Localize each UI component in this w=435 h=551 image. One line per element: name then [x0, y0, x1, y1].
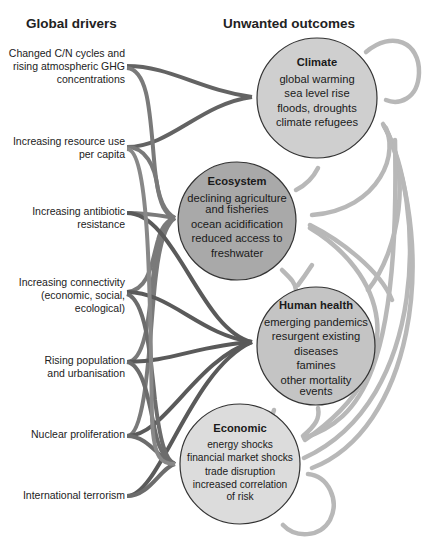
outcome-human-health: Human health emerging pandemics resurgen… [261, 298, 371, 399]
driver-line: ecological) [19, 302, 125, 315]
driver-line: Increasing connectivity [19, 276, 125, 289]
driver-line: per capita [13, 148, 125, 161]
outcome-title: Ecosystem [182, 174, 292, 189]
outcome-ecosystem: Ecosystem declining agriculture and fish… [182, 174, 292, 260]
outcome-item: financial market shocks [185, 451, 295, 465]
cn-to-ecosystem [127, 68, 175, 218]
driver-resource-use: Increasing resource use per capita [13, 135, 125, 161]
outcome-item: resurgent existing [261, 329, 371, 344]
driver-line: Increasing resource use [13, 135, 125, 148]
outcome-item: events [261, 384, 371, 399]
outcome-title: Human health [261, 298, 371, 313]
driver-nuclear-proliferation: Nuclear proliferation [31, 428, 125, 441]
driver-terrorism: International terrorism [23, 489, 125, 502]
driver-line: and urbanisation [44, 367, 125, 380]
outcome-climate: Climate global warming sea level rise fl… [262, 55, 372, 130]
outcome-title: Climate [262, 55, 372, 70]
driver-line: (economic, social, [19, 289, 125, 302]
outcome-item: emerging pandemics [261, 315, 371, 330]
driver-connectivity: Increasing connectivity (economic, socia… [19, 276, 125, 315]
outcomes-heading: Unwanted outcomes [223, 16, 355, 31]
outcome-item: of risk [185, 490, 295, 504]
outcome-title: Economic [185, 422, 295, 436]
resource-to-economic [127, 149, 175, 464]
driver-line: Changed C/N cycles and [9, 47, 125, 60]
ecosystem-to-health-link-2 [282, 270, 296, 290]
driver-line: rising atmospheric GHG [9, 60, 125, 73]
driver-line: Increasing antibiotic [32, 205, 125, 218]
driver-line: Rising population [44, 354, 125, 367]
driver-population: Rising population and urbanisation [44, 354, 125, 380]
outcome-item: freshwater [182, 246, 292, 261]
outcome-item: ocean acidification [182, 217, 292, 232]
driver-line: concentrations [9, 73, 125, 86]
outcome-item: floods, droughts [262, 101, 372, 116]
drivers-heading: Global drivers [26, 16, 117, 31]
driver-line: International terrorism [23, 489, 125, 502]
driver-line: resistance [32, 218, 125, 231]
outcome-item: trade disruption [185, 465, 295, 479]
climate-to-ecosystem-link [296, 168, 318, 190]
outcome-item: diseases [261, 344, 371, 359]
resource-to-climate [127, 97, 252, 147]
outcome-economic: Economic energy shocks financial market … [185, 422, 295, 503]
outcome-item: climate refugees [262, 115, 372, 130]
outcome-item: energy shocks [185, 438, 295, 452]
outcome-item: reduced access to [182, 231, 292, 246]
driver-cn-cycles: Changed C/N cycles and rising atmospheri… [9, 47, 125, 86]
health-to-ecosystem-link [298, 265, 312, 285]
driver-line: Nuclear proliferation [31, 428, 125, 441]
outcome-item: global warming [262, 72, 372, 87]
outcome-item: sea level rise [262, 86, 372, 101]
outcome-item: famines [261, 358, 371, 373]
driver-antibiotic-resistance: Increasing antibiotic resistance [32, 205, 125, 231]
